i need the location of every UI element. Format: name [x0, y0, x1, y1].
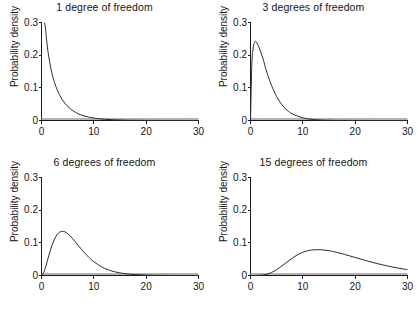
plot-area	[0, 0, 209, 155]
plot-area	[209, 155, 418, 310]
panel-df-15: 15 degrees of freedom Probability densit…	[209, 155, 418, 310]
panel-df-3: 3 degrees of freedom Probability density…	[209, 0, 418, 155]
panel-df-6: 6 degrees of freedom Probability density…	[0, 155, 209, 310]
plot-area	[209, 0, 418, 155]
plot-area	[0, 155, 209, 310]
panel-df-1: 1 degree of freedom Probability density …	[0, 0, 209, 155]
chi-square-figure: 1 degree of freedom Probability density …	[0, 0, 418, 310]
